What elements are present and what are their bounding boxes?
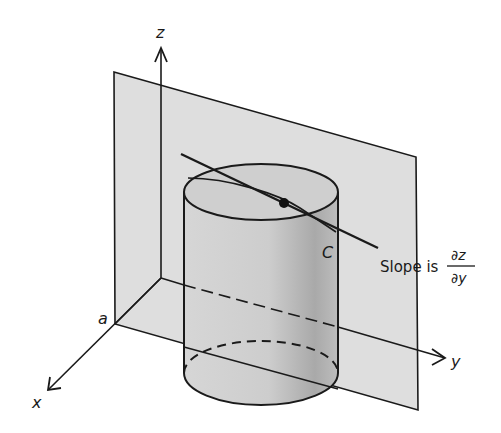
z-axis-label: z — [155, 23, 165, 42]
partial-derivative-diagram: z y x a C Slope is ∂z ∂y — [0, 0, 501, 433]
cylinder-body — [184, 192, 338, 405]
curve-c-label: C — [322, 243, 334, 262]
slope-numerator: ∂z — [451, 247, 466, 263]
slope-label: Slope is — [380, 258, 439, 276]
slope-denominator: ∂y — [451, 270, 467, 286]
y-axis-label: y — [450, 352, 461, 371]
x-axis-label: x — [31, 393, 42, 412]
a-label: a — [98, 309, 108, 328]
tangent-point — [279, 198, 289, 208]
y-axis-arrowhead — [432, 349, 445, 365]
